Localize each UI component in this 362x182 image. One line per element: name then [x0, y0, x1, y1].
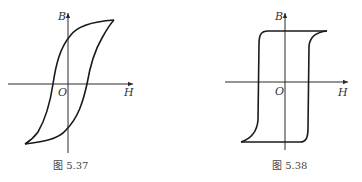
origin-label: O	[58, 86, 67, 99]
figure-5-38: B O H 图 5.38	[225, 10, 348, 171]
h-axis-label: H	[337, 86, 348, 99]
figure-canvas: B O H 图 5.37 B O H 图 5.38	[0, 0, 362, 182]
b-axis-label: B	[274, 10, 283, 23]
figure-caption: 图 5.37	[53, 160, 88, 171]
h-axis-label: H	[123, 86, 134, 99]
hysteresis-loop-lower-branch	[25, 20, 114, 144]
figure-5-37: B O H 图 5.37	[8, 10, 134, 171]
origin-label: O	[275, 85, 284, 98]
b-axis-label: B	[57, 10, 66, 23]
figure-caption: 图 5.38	[272, 160, 307, 171]
